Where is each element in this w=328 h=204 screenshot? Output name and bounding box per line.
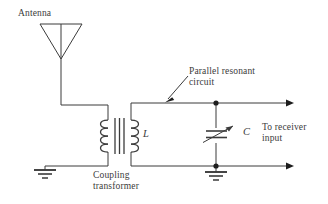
transformer-primary-coil: [101, 120, 109, 152]
capacitor-label: C: [243, 126, 250, 137]
ground-symbol-primary: [34, 170, 56, 178]
coupling-transformer-label-line1: Coupling: [93, 170, 130, 180]
schematic-canvas: Antenna Parallel resonantcircuit To rece…: [0, 0, 328, 204]
junction-dot-top: [213, 100, 218, 105]
junction-dot-bottom: [213, 163, 218, 168]
output-arrow-top: [286, 100, 294, 107]
coupling-transformer-label: Couplingtransformer: [93, 170, 139, 192]
variable-capacitor-symbol: [203, 126, 233, 143]
leader-line-parallel-resonant: [165, 76, 188, 103]
transformer-core: [115, 118, 124, 154]
coupling-transformer-label-line2: transformer: [93, 181, 139, 191]
circuit-schematic-svg: [0, 0, 328, 204]
antenna-label: Antenna: [18, 8, 51, 19]
output-arrow-bottom: [286, 163, 294, 170]
ground-symbol-tank: [205, 172, 227, 180]
parallel-resonant-circuit-label-line2: circuit: [189, 77, 214, 87]
inductor-label: L: [143, 128, 149, 139]
primary-wiring: [45, 105, 108, 170]
parallel-resonant-circuit-label: Parallel resonantcircuit: [189, 66, 255, 88]
to-receiver-input-label: To receiverinput: [262, 122, 307, 144]
antenna-symbol: [40, 24, 82, 105]
to-receiver-input-label-line1: To receiver: [262, 122, 307, 132]
parallel-resonant-circuit-label-line1: Parallel resonant: [189, 66, 255, 76]
transformer-secondary-coil: [131, 120, 139, 152]
to-receiver-input-label-line2: input: [262, 133, 282, 143]
